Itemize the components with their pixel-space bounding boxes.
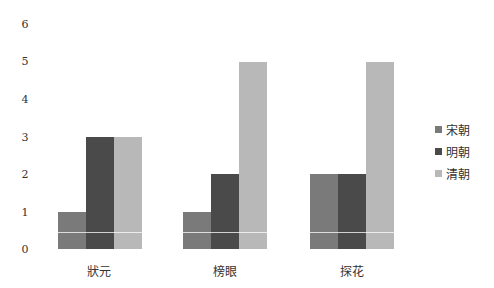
bar <box>338 174 366 249</box>
legend: 宋朝 明朝 清朝 <box>435 118 470 184</box>
bar-highlight-line <box>183 232 267 233</box>
x-tick-label: 狀元 <box>87 262 111 279</box>
legend-item: 明朝 <box>435 140 470 162</box>
y-tick-label: 2 <box>18 168 32 181</box>
bar <box>310 174 338 249</box>
legend-label: 宋朝 <box>446 121 470 138</box>
bar-chart: 0 1 2 3 4 5 6 狀元 榜眼 探花 宋朝 明朝 清朝 <box>0 0 494 288</box>
bar-highlight-line <box>310 232 394 233</box>
y-tick-label: 5 <box>18 55 32 68</box>
legend-label: 清朝 <box>446 165 470 182</box>
legend-item: 宋朝 <box>435 118 470 140</box>
bar-highlight-line <box>58 232 142 233</box>
y-tick-label: 4 <box>18 93 32 106</box>
legend-swatch-icon <box>435 126 442 133</box>
y-tick-label: 1 <box>18 206 32 219</box>
bar <box>58 212 86 250</box>
legend-label: 明朝 <box>446 143 470 160</box>
bar <box>239 62 267 250</box>
y-tick-label: 0 <box>18 243 32 256</box>
bar <box>211 174 239 249</box>
x-tick-label: 榜眼 <box>213 262 237 279</box>
legend-item: 清朝 <box>435 162 470 184</box>
x-tick-label: 探花 <box>340 262 364 279</box>
legend-swatch-icon <box>435 170 442 177</box>
bar <box>183 212 211 250</box>
legend-swatch-icon <box>435 148 442 155</box>
y-tick-label: 6 <box>18 18 32 31</box>
y-tick-label: 3 <box>18 131 32 144</box>
bar <box>366 62 394 250</box>
